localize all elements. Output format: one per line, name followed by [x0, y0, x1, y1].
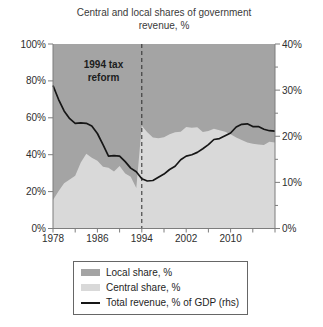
right-axis-label: 0%: [282, 223, 297, 234]
right-axis-label: 20%: [282, 131, 302, 142]
left-axis-label: 100%: [20, 39, 46, 50]
annotation-line1: 1994 tax: [70, 58, 137, 71]
x-axis-label: 1994: [131, 233, 154, 244]
x-axis-label: 1986: [86, 233, 109, 244]
left-axis-label: 40%: [26, 149, 46, 160]
legend-item-local-share: Local share, %: [81, 265, 239, 280]
x-axis-label: 1978: [42, 233, 65, 244]
total-revenue-line-swatch: [81, 302, 100, 304]
left-axis-label: 80%: [26, 75, 46, 86]
left-axis-label: 20%: [26, 186, 46, 197]
figure: Central and local shares of government r…: [0, 0, 323, 327]
legend-label-local-share: Local share, %: [106, 265, 172, 280]
local-share-swatch: [81, 269, 100, 276]
annotation-1994-tax-reform: 1994 tax reform: [70, 58, 137, 84]
legend: Local share, % Central share, % Total re…: [73, 261, 248, 315]
legend-label-total-revenue: Total revenue, % of GDP (rhs): [106, 295, 239, 310]
x-axis-label: 2002: [175, 233, 198, 244]
x-axis-label: 2010: [219, 233, 242, 244]
left-axis-label: 60%: [26, 112, 46, 123]
central-share-swatch: [81, 284, 100, 291]
legend-label-central-share: Central share, %: [106, 280, 180, 295]
annotation-line2: reform: [70, 71, 137, 84]
right-axis-label: 10%: [282, 177, 302, 188]
right-axis-label: 30%: [282, 85, 302, 96]
right-axis-label: 40%: [282, 39, 302, 50]
legend-item-central-share: Central share, %: [81, 280, 239, 295]
legend-item-total-revenue: Total revenue, % of GDP (rhs): [81, 295, 239, 310]
